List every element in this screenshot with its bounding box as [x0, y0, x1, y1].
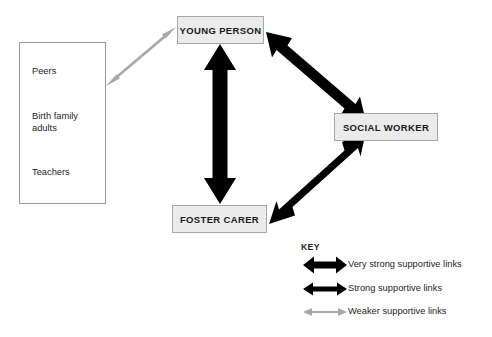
legend-row-weaker: Weaker supportive links: [300, 302, 490, 322]
legend-label-strong: Strong supportive links: [348, 283, 442, 293]
legend-arrow-weaker-icon: [302, 302, 348, 322]
node-young-person-label: YOUNG PERSON: [180, 25, 262, 36]
legend-arrow-very-strong-icon: [302, 255, 348, 275]
node-social-worker-label: SOCIAL WORKER: [343, 122, 429, 133]
node-social-worker: SOCIAL WORKER: [334, 113, 438, 141]
node-young-person: YOUNG PERSON: [177, 16, 264, 44]
network-item-teachers: Teachers: [32, 167, 70, 179]
legend-row-very-strong: Very strong supportive links: [300, 255, 490, 275]
legend-title: KEY: [301, 242, 320, 252]
network-group-box: Peers Birth family adults Teachers: [19, 42, 106, 204]
legend-label-weaker: Weaker supportive links: [348, 306, 447, 316]
legend-label-very-strong: Very strong supportive links: [348, 259, 462, 269]
node-foster-carer-label: FOSTER CARER: [180, 214, 259, 225]
legend-row-strong: Strong supportive links: [300, 279, 490, 299]
legend-arrow-strong-icon: [302, 279, 348, 299]
network-item-peers: Peers: [32, 66, 56, 78]
arrow-foster-carer-social-worker: [269, 131, 366, 224]
arrow-network-young-person: [106, 27, 176, 86]
network-item-birth-family-adults: Birth family adults: [32, 111, 78, 134]
arrow-young-person-social-worker: [266, 32, 366, 122]
diagram-canvas: Peers Birth family adults Teachers YOUNG…: [0, 0, 492, 337]
arrow-young-person-foster-carer: [204, 44, 236, 204]
node-foster-carer: FOSTER CARER: [172, 205, 267, 233]
legend: KEY Very strong supportive links Strong …: [300, 242, 490, 332]
